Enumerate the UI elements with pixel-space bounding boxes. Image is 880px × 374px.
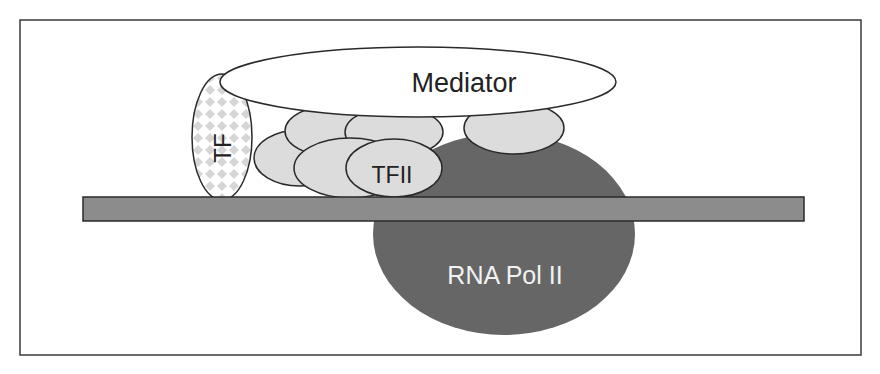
dna-strand [83,197,804,221]
rna-pol-ii-label: RNA Pol II [447,261,562,289]
mediator-label: Mediator [411,68,516,98]
tfii-label: TFII [372,162,413,188]
tf-label: TF [209,133,236,162]
transcription-complex-diagram: Mediator TFII TF RNA Pol II [0,0,880,374]
